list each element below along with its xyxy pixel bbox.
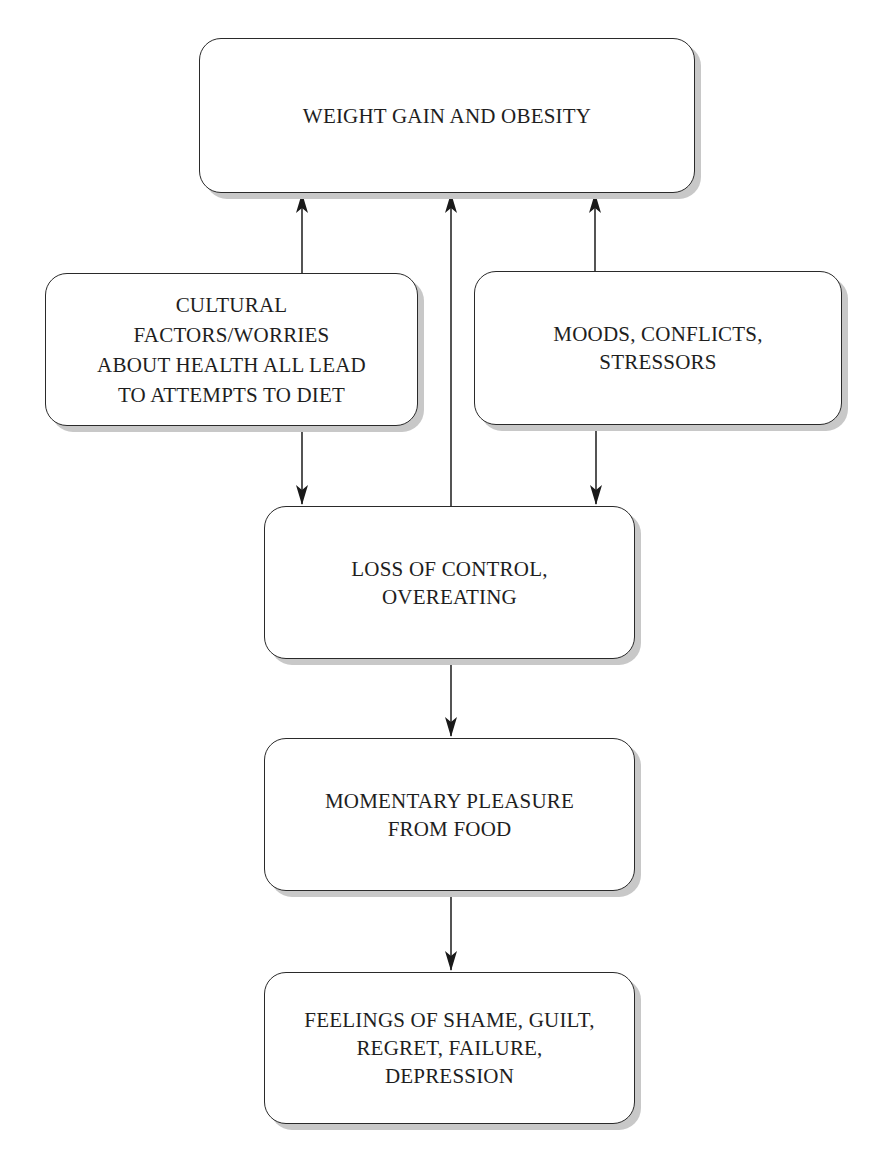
node-label: MOODS, CONFLICTS, STRESSORS — [553, 320, 762, 376]
node-label: LOSS OF CONTROL, OVEREATING — [351, 555, 547, 611]
node-weight-gain-obesity: WEIGHT GAIN AND OBESITY — [199, 38, 695, 193]
node-cultural-factors: CULTURAL FACTORS/WORRIES ABOUT HEALTH AL… — [45, 273, 418, 426]
flowchart-canvas: WEIGHT GAIN AND OBESITY CULTURAL FACTORS… — [0, 0, 878, 1160]
node-loss-of-control: LOSS OF CONTROL, OVEREATING — [264, 506, 635, 659]
node-label: CULTURAL FACTORS/WORRIES ABOUT HEALTH AL… — [97, 290, 366, 410]
node-label: FEELINGS OF SHAME, GUILT, REGRET, FAILUR… — [304, 1006, 594, 1090]
node-label: WEIGHT GAIN AND OBESITY — [303, 102, 591, 130]
node-moods-conflicts-stressors: MOODS, CONFLICTS, STRESSORS — [474, 271, 842, 425]
node-feelings-of-shame: FEELINGS OF SHAME, GUILT, REGRET, FAILUR… — [264, 972, 635, 1124]
node-label: MOMENTARY PLEASURE FROM FOOD — [325, 787, 574, 843]
node-momentary-pleasure: MOMENTARY PLEASURE FROM FOOD — [264, 738, 635, 891]
